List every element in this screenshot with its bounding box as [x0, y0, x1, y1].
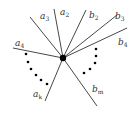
edge-label-ak: ak [33, 89, 42, 100]
edge-label-b3: b3 [115, 11, 125, 22]
right-ellipsis-dot [83, 72, 86, 75]
left-ellipsis-dot [30, 68, 33, 71]
edge-labels: a4a3a2b2b3b4akbm [15, 7, 128, 100]
edge-rays [13, 9, 127, 106]
left-ellipsis-dot [25, 53, 28, 56]
left-ellipsis-dot [40, 79, 43, 82]
edge-bm [63, 58, 97, 106]
left-ellipsis-dot [35, 74, 38, 77]
edge-label-a2: a2 [60, 7, 69, 18]
edge-label-b2: b2 [89, 10, 99, 21]
edge-label-a3: a3 [40, 11, 49, 22]
edge-a4 [13, 48, 63, 58]
edge-label-a4: a4 [15, 38, 24, 49]
right-ellipsis-dot [95, 55, 98, 58]
right-ellipsis-dot [94, 62, 97, 65]
left-ellipsis-dot [46, 83, 49, 86]
edge-label-bm: bm [92, 84, 104, 95]
ellipsis-dots [25, 48, 98, 86]
edge-ak [45, 58, 63, 101]
right-ellipsis-dot [95, 48, 98, 51]
center-vertex [60, 55, 66, 61]
edge-a3 [30, 17, 63, 58]
left-ellipsis-dot [27, 61, 30, 64]
right-ellipsis-dot [89, 68, 92, 71]
edge-label-b4: b4 [118, 37, 128, 48]
star-graph-diagram: a4a3a2b2b3b4akbm [0, 0, 137, 113]
